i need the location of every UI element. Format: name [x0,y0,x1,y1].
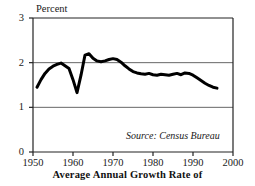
x-tick-label-1960: 1960 [57,157,89,168]
chart-figure: Percent 0123 195019601970198019902000 So… [0,0,255,186]
x-tick-label-1950: 1950 [17,157,49,168]
y-tick-label-0: 0 [8,146,24,157]
y-tick-label-1: 1 [8,101,24,112]
x-tick-label-2000: 2000 [217,157,249,168]
chart-caption: Average Annual Growth Rate of [0,169,255,180]
source-annotation: Source: Census Bureau [126,130,220,141]
x-tick-label-1980: 1980 [137,157,169,168]
y-tick-label-2: 2 [8,57,24,68]
series-line-0 [37,54,217,93]
x-tick-label-1990: 1990 [177,157,209,168]
y-tick-label-3: 3 [8,12,24,23]
x-tick-label-1970: 1970 [97,157,129,168]
